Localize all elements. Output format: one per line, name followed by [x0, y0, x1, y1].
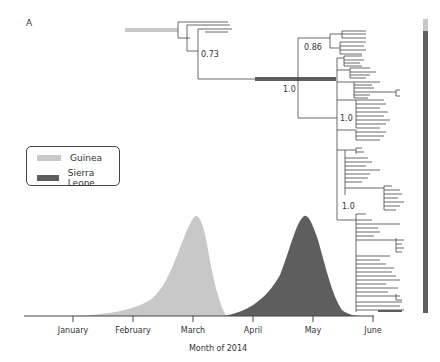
- support-value-sl-root: 1.0: [283, 85, 296, 94]
- legend-item-sierra-leone: Sierra Leone: [37, 168, 119, 188]
- legend-label-guinea: Guinea: [70, 153, 102, 163]
- support-value-cluster-3: 1.0: [342, 202, 355, 211]
- x-axis-title: Month of 2014: [189, 344, 247, 353]
- support-value-upper-clade: 0.86: [304, 43, 322, 52]
- phylogenetic-tree: [125, 22, 404, 312]
- x-axis: January February March April May June Mo…: [24, 316, 382, 353]
- sierra-leone-density: [224, 216, 362, 316]
- tick-label-april: April: [244, 326, 262, 335]
- tick-label-february: February: [115, 326, 151, 335]
- guinea-density: [60, 216, 226, 316]
- tick-label-may: May: [305, 326, 322, 335]
- legend-item-guinea: Guinea: [37, 153, 102, 163]
- clade-side-bar: [423, 19, 428, 313]
- panel-label: A: [26, 18, 33, 28]
- tick-label-march: March: [181, 326, 205, 335]
- tick-label-january: January: [57, 326, 89, 335]
- sierra-leone-swatch: [37, 175, 59, 181]
- support-value-guinea: 0.73: [201, 50, 219, 59]
- tick-label-june: June: [363, 326, 382, 335]
- legend-label-sierra-leone: Sierra Leone: [68, 168, 119, 188]
- legend: Guinea Sierra Leone: [26, 146, 120, 186]
- guinea-swatch: [37, 155, 61, 161]
- support-value-cluster-2: 1.0: [340, 114, 353, 123]
- density-curves: [60, 216, 362, 316]
